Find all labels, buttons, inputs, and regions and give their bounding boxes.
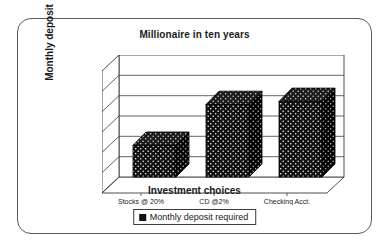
- category-label: Stocks @ 20%: [118, 198, 164, 205]
- chart-legend: Monthly deposit required: [133, 209, 257, 225]
- x-axis-title: Investment choices: [18, 185, 371, 196]
- category-label: CD @2%: [199, 198, 228, 205]
- chart-plot-svg: $10,000 $8,000 $6,000 $4,000 $2,000 $0: [102, 55, 352, 205]
- legend-swatch-icon: [139, 214, 146, 221]
- bar-stocks[interactable]: [133, 132, 189, 177]
- legend-label: Monthly deposit required: [150, 212, 249, 222]
- chart-title: Millionaire in ten years: [18, 29, 371, 40]
- chart-frame: Millionaire in ten years Monthly deposit: [17, 18, 372, 234]
- x-category-labels: Stocks @ 20% CD @2% Checking Acct.: [118, 198, 310, 205]
- bar-checking[interactable]: [279, 88, 335, 177]
- plot-area: $10,000 $8,000 $6,000 $4,000 $2,000 $0: [102, 55, 352, 190]
- bar-cd[interactable]: [206, 91, 262, 177]
- y-axis-title: Monthly deposit: [44, 0, 55, 98]
- category-label: Checking Acct.: [264, 198, 310, 205]
